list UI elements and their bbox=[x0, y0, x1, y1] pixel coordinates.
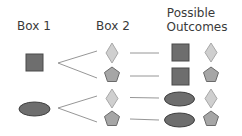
box2-diamond-icon bbox=[106, 43, 118, 63]
header-outcomes-line1: Possible bbox=[167, 6, 215, 20]
outcome-pentagon-icon bbox=[204, 67, 219, 82]
outcome-diamond-icon bbox=[205, 89, 217, 108]
outcome-square-icon bbox=[172, 68, 189, 85]
header-outcomes-line2: Outcomes bbox=[166, 20, 227, 34]
outcome-pentagon-icon bbox=[204, 111, 219, 126]
branch-lines bbox=[58, 51, 97, 122]
header-box2: Box 2 bbox=[96, 19, 130, 33]
outcome-ellipse-icon bbox=[165, 92, 195, 106]
box2-diamond-icon bbox=[106, 89, 118, 108]
box2-pentagon-icon bbox=[105, 67, 120, 82]
outcome-diamond-icon bbox=[205, 43, 217, 62]
box2-pentagon-icon bbox=[105, 111, 120, 126]
box1-ellipse-icon bbox=[19, 102, 50, 116]
box1-square-icon bbox=[26, 54, 43, 71]
tree-diagram: Box 1 Box 2 Possible Outcomes bbox=[0, 0, 242, 136]
outcome-ellipse-icon bbox=[165, 113, 195, 127]
outcome-square-icon bbox=[172, 44, 189, 61]
connector-lines bbox=[130, 53, 159, 120]
header-box1: Box 1 bbox=[17, 19, 51, 33]
